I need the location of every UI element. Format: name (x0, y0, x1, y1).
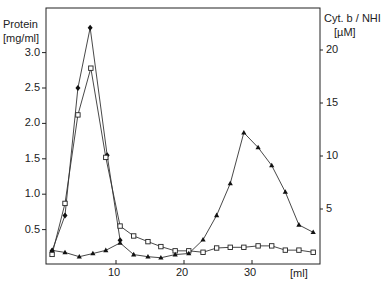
tick-label: 1.5 (25, 152, 40, 164)
plot-frame (46, 8, 320, 264)
tick-label: 15 (326, 96, 338, 108)
open-square-marker (104, 155, 108, 159)
open-square-marker (297, 248, 301, 252)
tick-label: 30 (244, 266, 256, 278)
open-square-marker (228, 245, 232, 249)
open-square-marker (50, 252, 54, 256)
series-line (52, 133, 313, 258)
open-square-marker (89, 66, 93, 70)
tick-label: 20 (326, 43, 338, 55)
tick-label: 10 (326, 149, 338, 161)
open-square-marker (256, 244, 260, 248)
tick-label: 3.0 (25, 46, 40, 58)
tick-label: 0.5 (25, 223, 40, 235)
open-square-marker (201, 250, 205, 254)
tick-label: 2.0 (25, 116, 40, 128)
filled-triangle-marker (241, 130, 246, 135)
open-square-marker (311, 250, 315, 254)
open-square-marker (283, 248, 287, 252)
filled-triangle-marker (296, 222, 301, 227)
series-markers (49, 25, 315, 260)
open-square-marker (159, 244, 163, 248)
open-square-marker (131, 234, 135, 238)
open-square-marker (242, 245, 246, 249)
left-axis-label-line1: Protein (3, 17, 39, 31)
right-axis-label-line1: Cyt. b / NHI (324, 11, 381, 25)
series-line (52, 28, 120, 251)
open-square-marker (118, 224, 122, 228)
filled-triangle-marker (283, 189, 288, 194)
tick-label: 1.0 (25, 187, 40, 199)
tick-label: 20 (176, 266, 188, 278)
axis-ticks (42, 50, 323, 264)
tick-label: 10 (108, 266, 120, 278)
filled-triangle-marker (214, 213, 219, 218)
filled-triangle-marker (228, 181, 233, 186)
left-axis-label-line2: [mg/ml] (3, 31, 39, 45)
chart-plot (0, 0, 381, 284)
filled-diamond-marker (75, 85, 80, 91)
open-square-marker (146, 239, 150, 243)
tick-label: 5 (326, 202, 332, 214)
filled-diamond-marker (88, 25, 93, 31)
open-square-marker (76, 113, 80, 117)
open-square-marker (270, 244, 274, 248)
right-axis-label-line2: [µM] (324, 25, 381, 39)
filled-triangle-marker (200, 237, 205, 242)
series-lines (52, 28, 313, 258)
x-axis-label: [ml] (290, 267, 308, 279)
right-axis-label: Cyt. b / NHI [µM] (324, 11, 381, 39)
open-square-marker (63, 201, 67, 205)
filled-diamond-marker (63, 212, 68, 218)
series-line (52, 68, 313, 254)
left-axis-label: Protein [mg/ml] (3, 17, 39, 45)
open-square-marker (214, 246, 218, 250)
tick-label: 2.5 (25, 81, 40, 93)
